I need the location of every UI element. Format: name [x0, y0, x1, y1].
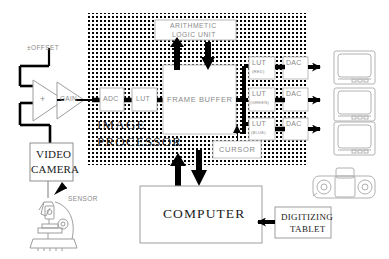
tablet-puck-illustration: [313, 168, 375, 198]
microscope-illustration: [30, 202, 77, 251]
summing-amp-label: +: [40, 94, 45, 104]
output-lut-label-blue: LUT: [252, 120, 266, 127]
image-processor-label-line1: IMAGE: [97, 117, 146, 133]
alu-label-line1: ARITHMETIC: [170, 22, 217, 29]
output-dac-label-red: DAC: [286, 59, 302, 66]
sensor-pointer-arrow: [54, 182, 67, 195]
output-lut-label-red: LUT: [252, 59, 266, 66]
sensor-label: SENSOR: [68, 195, 98, 202]
output-lut-color-red: (RED): [252, 69, 265, 74]
video-camera-label-line2: CAMERA: [31, 163, 79, 175]
digitizing-tablet-label-line1: DIGITIZING: [281, 212, 333, 222]
dac-to-monitor-arrows: [308, 67, 320, 129]
computer-label: COMPUTER: [163, 206, 245, 222]
cursor-label: CURSOR: [219, 145, 256, 154]
digitizing-tablet-label-line2: TABLET: [290, 224, 326, 234]
input-lut-label: LUT: [136, 95, 150, 102]
output-dac-label-blue: DAC: [286, 120, 302, 127]
output-lut-color-blue: (BLUE): [251, 130, 266, 135]
output-lut-color-green: (GREEN): [250, 100, 269, 105]
image-processor-label-line2: PROCESSOR: [97, 134, 182, 150]
offset-label: ±OFFSET: [27, 44, 59, 51]
adc-label: ADC: [103, 95, 119, 102]
output-lut-label-green: LUT: [252, 90, 266, 97]
frame-buffer-label: FRAME BUFFER: [167, 95, 233, 104]
alu-label-line2: LOGIC UNIT: [172, 31, 216, 38]
diagram-canvas: ±OFFSET + GAIN VIDEO CAMERA SENSOR ADC L…: [0, 0, 389, 259]
monitor-green: [334, 88, 375, 121]
output-dac-label-green: DAC: [286, 90, 302, 97]
video-camera-label-line1: VIDEO: [36, 148, 71, 160]
gain-amp-label: GAIN: [60, 95, 77, 102]
monitor-blue: [334, 122, 375, 155]
monitor-red: [334, 51, 375, 84]
